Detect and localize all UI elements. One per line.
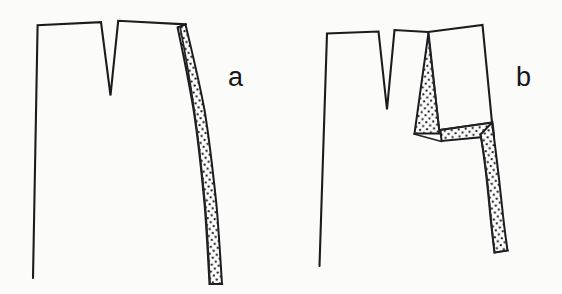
wedge-base-b (414, 134, 442, 142)
panel-b: b (320, 25, 532, 266)
outline-b (320, 30, 429, 266)
figure-drawing: a b (0, 0, 562, 294)
panel-a: a (33, 21, 244, 284)
shaded-lower-band-b (481, 123, 508, 253)
shaded-wedge-b (415, 33, 440, 134)
outline-a (33, 21, 186, 278)
panel-label-a: a (228, 62, 244, 92)
figure-container: a b (0, 0, 562, 294)
panel-label-b: b (516, 62, 531, 92)
